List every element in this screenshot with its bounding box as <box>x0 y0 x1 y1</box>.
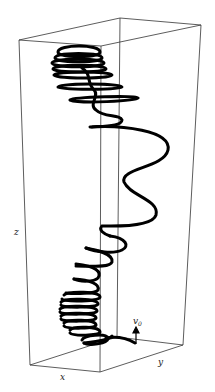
y-axis-label: y <box>157 357 164 367</box>
bounding-box <box>19 18 201 372</box>
trajectory-plot: v0 x y z <box>0 0 215 392</box>
x-axis-label: x <box>60 372 65 382</box>
velocity-label: v0 <box>133 316 142 327</box>
z-axis-label: z <box>13 227 19 237</box>
helical-trajectory <box>52 46 168 344</box>
